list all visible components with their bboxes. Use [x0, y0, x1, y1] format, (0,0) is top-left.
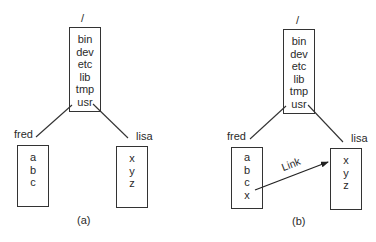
fred-directory-box: a b c x	[231, 147, 263, 209]
root-directory-box: bin dev etc lib tmp usr	[283, 29, 315, 114]
lisa-label: lisa	[351, 132, 368, 144]
dir-entry: bin	[70, 33, 100, 46]
fred-directory-box: a b c	[17, 145, 49, 207]
dir-entry: y	[331, 167, 361, 180]
dir-entry: tmp	[284, 85, 314, 98]
dir-entry: dev	[284, 48, 314, 61]
panel-a: / bin dev etc lib tmp usr fred a b c lis…	[0, 0, 188, 242]
dir-entry: usr	[284, 98, 314, 111]
dir-entry: y	[117, 165, 147, 178]
dir-entry: z	[331, 179, 361, 192]
dir-entry: a	[18, 151, 48, 164]
dir-entry: x	[232, 189, 262, 202]
dir-entry: c	[18, 176, 48, 189]
dir-entry: b	[18, 164, 48, 177]
dir-entry: etc	[70, 58, 100, 71]
dir-entry: c	[232, 176, 262, 189]
lisa-label: lisa	[136, 130, 153, 142]
root-label: /	[296, 14, 299, 26]
dir-entry: lib	[70, 71, 100, 84]
dir-entry: b	[232, 164, 262, 177]
dir-entry: z	[117, 177, 147, 190]
dir-entry: lib	[284, 73, 314, 86]
dir-entry: x	[331, 154, 361, 167]
lisa-directory-box: x y z	[330, 148, 362, 210]
root-directory-box: bin dev etc lib tmp usr	[69, 27, 101, 112]
fred-label: fred	[227, 130, 246, 142]
dir-entry: bin	[284, 35, 314, 48]
dir-entry: etc	[284, 60, 314, 73]
dir-entry: tmp	[70, 83, 100, 96]
dir-entry: x	[117, 152, 147, 165]
dir-entry: dev	[70, 46, 100, 59]
panel-b: / bin dev etc lib tmp usr fred a b c x l…	[188, 0, 376, 242]
root-label: /	[81, 12, 84, 24]
dir-entry: usr	[70, 96, 100, 109]
caption-a: (a)	[77, 214, 90, 226]
dir-entry: a	[232, 151, 262, 164]
lisa-directory-box: x y z	[116, 146, 148, 208]
fred-label: fred	[14, 128, 33, 140]
caption-b: (b)	[292, 215, 305, 227]
